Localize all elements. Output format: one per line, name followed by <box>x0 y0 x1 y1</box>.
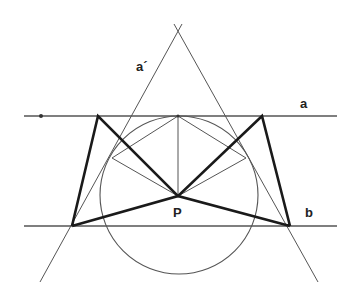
label-a: a <box>300 96 308 111</box>
label-a-prime: a´ <box>136 59 148 74</box>
point-on-line-a <box>39 114 43 118</box>
line-a-prime-right <box>174 24 318 282</box>
label-b: b <box>305 205 313 220</box>
top-point <box>176 114 179 117</box>
thin-segment-top-right <box>178 116 246 158</box>
line-a-prime-left <box>40 24 182 282</box>
thick-triangle-left <box>72 116 178 226</box>
thin-segment-top-left <box>112 116 178 158</box>
geometry-diagram: a´ a b P <box>0 0 356 297</box>
label-p: P <box>173 205 182 220</box>
